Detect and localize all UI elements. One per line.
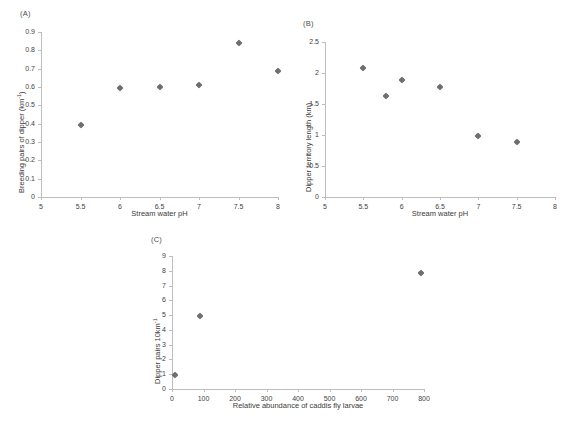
panel-c-y-tick (169, 271, 172, 272)
panel-c-x-ticklabel: 800 (409, 395, 439, 402)
panel-c-x-tick (393, 389, 394, 392)
panel-c-x-tick (172, 389, 173, 392)
panel-c-y-tick (169, 315, 172, 316)
panel-c-y-tick (169, 286, 172, 287)
panel-c-y-ticklabel: 9 (132, 252, 166, 259)
panel-c-x-tick (204, 389, 205, 392)
panel-c: (C)01234567890100200300400500600700800Re… (0, 0, 576, 431)
panel-c-y-tick (169, 256, 172, 257)
panel-c-y-axis-title: Dipper pairs 10km-1 (154, 318, 162, 384)
panel-c-data-point (197, 312, 204, 319)
panel-c-y-ticklabel: 7 (132, 282, 166, 289)
panel-c-y-axis-title-text: Dipper pairs 10km (153, 323, 162, 384)
panel-c-y-axis-title-exponent: -1 (152, 318, 158, 323)
panel-c-data-point (417, 269, 424, 276)
panel-c-y-tick (169, 359, 172, 360)
panel-c-y-tick (169, 345, 172, 346)
panel-c-label: (C) (151, 235, 162, 244)
panel-c-y-axis (172, 256, 173, 389)
panel-c-x-tick (330, 389, 331, 392)
panel-c-y-tick (169, 300, 172, 301)
panel-c-plot-area: 01234567890100200300400500600700800 (172, 256, 424, 389)
panel-c-y-ticklabel: 5 (132, 311, 166, 318)
panel-c-x-tick (424, 389, 425, 392)
panel-c-x-ticklabel: 0 (157, 395, 187, 402)
panel-c-y-ticklabel: 8 (132, 267, 166, 274)
panel-c-x-tick (361, 389, 362, 392)
panel-c-y-ticklabel: 0 (132, 385, 166, 392)
panel-c-x-tick (235, 389, 236, 392)
panel-c-x-ticklabel: 100 (189, 395, 219, 402)
panel-c-x-tick (267, 389, 268, 392)
panel-c-x-tick (298, 389, 299, 392)
panel-c-x-axis-title: Relative abundance of caddis fly larvae (172, 402, 424, 410)
panel-c-y-ticklabel: 6 (132, 296, 166, 303)
panel-c-y-tick (169, 330, 172, 331)
panel-c-x-ticklabel: 700 (378, 395, 408, 402)
